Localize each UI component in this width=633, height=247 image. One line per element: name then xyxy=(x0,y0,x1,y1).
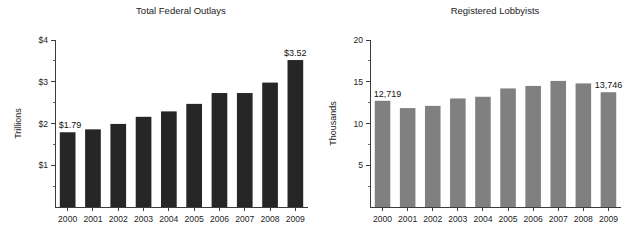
value-label-2009: $3.52 xyxy=(284,48,307,58)
x-tick-label-2007: 2007 xyxy=(549,214,568,224)
bar-2000[interactable] xyxy=(60,132,76,207)
bar-2008[interactable] xyxy=(262,83,278,207)
two-panel-bar-chart-figure: Total Federal OutlaysTrillions$1$2$3$420… xyxy=(0,0,633,247)
y-axis-label: Trillions xyxy=(13,108,23,139)
chart-panel-registered-lobbyists: Registered LobbyistsThousands51015202000… xyxy=(320,0,633,247)
y-tick-label: $2 xyxy=(38,119,48,129)
x-tick-label-2005: 2005 xyxy=(498,214,517,224)
bar-2003[interactable] xyxy=(136,117,152,207)
bar-2002[interactable] xyxy=(110,124,126,207)
bar-2004[interactable] xyxy=(161,111,177,207)
y-tick-label: 5 xyxy=(358,160,363,170)
x-tick-label-2007: 2007 xyxy=(235,214,254,224)
bar-2000[interactable] xyxy=(375,101,391,207)
y-axis-label: Thousands xyxy=(328,101,338,146)
x-tick-label-2002: 2002 xyxy=(109,214,128,224)
bar-2009[interactable] xyxy=(288,60,304,207)
y-tick-label: $3 xyxy=(38,77,48,87)
x-tick-label-2006: 2006 xyxy=(524,214,543,224)
x-tick-label-2003: 2003 xyxy=(448,214,467,224)
registered-lobbyists-chart: Registered LobbyistsThousands51015202000… xyxy=(320,0,633,247)
bar-2007[interactable] xyxy=(550,81,566,207)
x-tick-label-2003: 2003 xyxy=(134,214,153,224)
bar-2001[interactable] xyxy=(85,129,101,207)
value-label-2000: 12,719 xyxy=(374,89,402,99)
x-tick-label-2008: 2008 xyxy=(574,214,593,224)
bar-2003[interactable] xyxy=(450,98,466,207)
chart-title: Total Federal Outlays xyxy=(136,5,226,16)
y-tick-label: $4 xyxy=(38,35,48,45)
chart-title: Registered Lobbyists xyxy=(451,5,540,16)
bar-2005[interactable] xyxy=(186,104,202,207)
bar-2002[interactable] xyxy=(425,106,441,207)
bar-2008[interactable] xyxy=(576,83,592,207)
y-tick-label: 15 xyxy=(353,77,363,87)
bar-2007[interactable] xyxy=(237,93,253,207)
bar-2009[interactable] xyxy=(601,92,617,207)
x-tick-label-2008: 2008 xyxy=(260,214,279,224)
y-tick-label: $1 xyxy=(38,160,48,170)
bar-2006[interactable] xyxy=(212,93,228,207)
x-tick-label-2001: 2001 xyxy=(398,214,417,224)
x-tick-label-2006: 2006 xyxy=(210,214,229,224)
x-tick-label-2004: 2004 xyxy=(159,214,178,224)
x-tick-label-2004: 2004 xyxy=(473,214,492,224)
bar-2006[interactable] xyxy=(525,86,541,207)
x-tick-label-2009: 2009 xyxy=(286,214,305,224)
chart-panel-total-federal-outlays: Total Federal OutlaysTrillions$1$2$3$420… xyxy=(0,0,320,247)
x-tick-label-2000: 2000 xyxy=(58,214,77,224)
x-tick-label-2009: 2009 xyxy=(599,214,618,224)
bar-2005[interactable] xyxy=(500,88,516,207)
y-tick-label: 20 xyxy=(353,35,363,45)
bar-2001[interactable] xyxy=(400,108,416,207)
x-tick-label-2002: 2002 xyxy=(423,214,442,224)
value-label-2009: 13,746 xyxy=(595,80,623,90)
x-tick-label-2001: 2001 xyxy=(83,214,102,224)
x-tick-label-2005: 2005 xyxy=(185,214,204,224)
x-tick-label-2000: 2000 xyxy=(373,214,392,224)
total-federal-outlays-chart: Total Federal OutlaysTrillions$1$2$3$420… xyxy=(0,0,320,247)
y-tick-label: 10 xyxy=(353,119,363,129)
bar-2004[interactable] xyxy=(475,97,491,207)
value-label-2000: $1.79 xyxy=(59,120,82,130)
